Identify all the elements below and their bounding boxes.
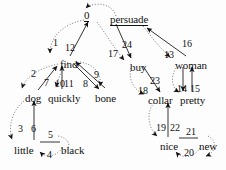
edge-label-22: 22 <box>170 123 180 133</box>
edge-label-1: 1 <box>53 38 58 48</box>
node-dog[interactable]: dog <box>25 93 41 104</box>
edge-label-24: 24 <box>122 40 132 50</box>
edge-label-23: 23 <box>150 76 160 86</box>
edge-label-8: 8 <box>83 79 88 89</box>
dotted-arc-edges <box>11 4 215 156</box>
edge-label-5: 5 <box>48 130 53 140</box>
node-bone[interactable]: bone <box>95 93 116 104</box>
edge-label-16: 16 <box>182 39 192 49</box>
dependency-parse-diagram: 0 persuade find buy woman dog quickly bo… <box>0 0 226 170</box>
node-find[interactable]: find <box>60 59 77 70</box>
node-woman[interactable]: woman <box>175 60 207 71</box>
edge-label-20: 20 <box>184 148 194 158</box>
edge-label-12: 12 <box>65 43 75 53</box>
edge-label-17: 17 <box>108 49 118 59</box>
edge-label-11: 11 <box>64 79 74 89</box>
edge-label-3: 3 <box>18 124 23 134</box>
node-collar[interactable]: collar <box>148 95 172 106</box>
edge-label-7: 7 <box>44 78 49 88</box>
node-root[interactable]: 0 <box>84 10 89 22</box>
edge-label-13: 13 <box>164 50 174 60</box>
node-little[interactable]: little <box>14 145 34 156</box>
edge-label-14: 14 <box>177 84 187 94</box>
edge-label-2: 2 <box>31 69 36 79</box>
edge-label-4: 4 <box>47 150 52 160</box>
edge-label-9: 9 <box>94 70 99 80</box>
edge-label-19: 19 <box>156 123 166 133</box>
node-quickly[interactable]: quickly <box>48 93 80 104</box>
edge-label-18: 18 <box>138 86 148 96</box>
edge-label-21: 21 <box>186 127 196 137</box>
edge-label-6: 6 <box>31 124 36 134</box>
node-nice[interactable]: nice <box>160 141 178 152</box>
edge-label-15: 15 <box>190 84 200 94</box>
node-new[interactable]: new <box>199 141 217 152</box>
node-pretty[interactable]: pretty <box>180 95 205 106</box>
node-persuade[interactable]: persuade <box>110 14 148 26</box>
node-black[interactable]: black <box>61 145 84 156</box>
node-buy[interactable]: buy <box>130 62 146 73</box>
